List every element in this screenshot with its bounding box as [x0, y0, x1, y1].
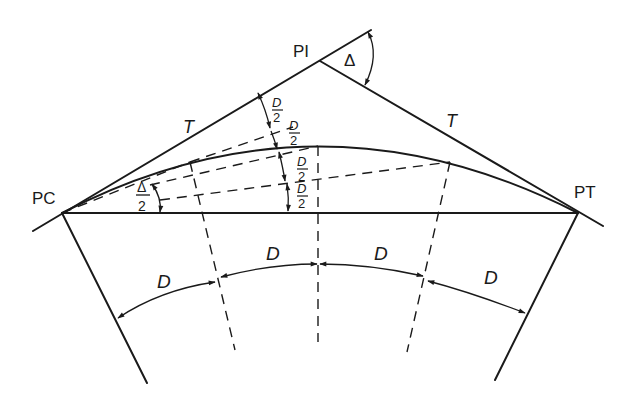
label-tangent-left: T: [183, 117, 196, 137]
chord-dashed-to-midpoint: [150, 146, 318, 185]
label-deflection-2: D 2: [289, 118, 300, 148]
svg-text:D: D: [297, 154, 306, 169]
svg-text:2: 2: [298, 196, 305, 211]
svg-text:D: D: [289, 118, 298, 133]
svg-text:D: D: [297, 181, 306, 196]
radial-dashed-line-3: [407, 162, 450, 352]
deflection-arc-1: [258, 93, 270, 128]
forward-tangent-line: [320, 61, 603, 226]
arc-dimension-4: [428, 281, 525, 313]
label-pt: PT: [574, 183, 596, 202]
label-tangent-right: T: [446, 111, 459, 131]
arc-dimension-3: [320, 264, 423, 276]
label-deflection-3: D 2: [297, 154, 308, 184]
label-deflection-1: D 2: [272, 95, 283, 125]
half-delta-arc: [152, 184, 160, 212]
radius-line-pc: [62, 213, 147, 383]
label-arc-d-4: D: [484, 267, 498, 288]
delta-arc: [365, 32, 373, 85]
radial-dashed-line-1: [190, 162, 235, 350]
radius-line-pt: [495, 213, 578, 380]
deflection-arc-3: [279, 152, 285, 181]
chord-dashed-to-station-1: [62, 162, 190, 213]
label-half-delta: Δ 2: [136, 179, 150, 214]
label-arc-d-3: D: [374, 243, 388, 264]
label-pc: PC: [32, 189, 56, 208]
curve-diagram: PC PI PT T T Δ Δ 2 D 2 D 2 D 2 D 2 D D D…: [0, 0, 623, 397]
label-arc-d-1: D: [157, 271, 171, 292]
svg-text:Δ: Δ: [137, 179, 146, 195]
svg-text:2: 2: [138, 198, 146, 214]
label-deflection-4: D 2: [297, 181, 308, 211]
arc-dimension-2: [221, 264, 317, 277]
label-delta: Δ: [344, 51, 355, 70]
chord-dashed-deflection-1: [190, 127, 293, 162]
deflection-arc-4: [287, 184, 288, 211]
svg-text:2: 2: [273, 110, 280, 125]
svg-text:2: 2: [290, 133, 297, 148]
label-arc-d-2: D: [266, 243, 280, 264]
label-pi: PI: [293, 42, 309, 61]
svg-text:D: D: [272, 95, 281, 110]
